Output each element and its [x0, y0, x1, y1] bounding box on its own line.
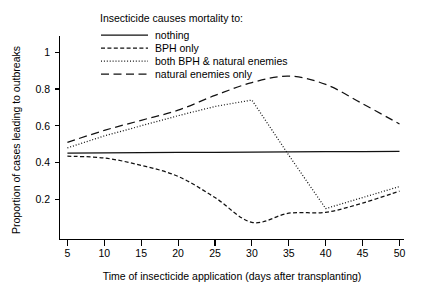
x-tick-label: 35 — [283, 247, 295, 259]
legend-label-both-bph-and-natural-enemies: both BPH & natural enemies — [155, 55, 288, 67]
x-tick-label: 10 — [98, 247, 110, 259]
x-tick-label: 30 — [246, 247, 258, 259]
y-tick-label: 1 — [44, 46, 50, 58]
y-tick-label: 0.4 — [35, 156, 50, 168]
series-line-bph-only — [67, 156, 399, 223]
y-axis-ticks: 0.2 0.4 0.6 0.8 1 — [35, 46, 59, 205]
x-tick-label: 50 — [394, 247, 406, 259]
legend-label-nothing: nothing — [155, 29, 190, 41]
line-chart: 0.2 0.4 0.6 0.8 1 5 10 15 20 25 30 — [0, 0, 421, 293]
x-tick-label: 15 — [135, 247, 147, 259]
x-axis-ticks: 5 10 15 20 25 30 35 40 45 50 — [64, 240, 405, 260]
x-tick-label: 25 — [209, 247, 221, 259]
legend-title: Insecticide causes mortality to: — [100, 12, 243, 24]
series-line-nothing — [67, 151, 399, 153]
x-tick-label: 45 — [357, 247, 369, 259]
legend: Insecticide causes mortality to: nothing… — [100, 12, 288, 80]
y-tick-label: 0.6 — [35, 120, 50, 132]
chart-figure: 0.2 0.4 0.6 0.8 1 5 10 15 20 25 30 — [0, 0, 421, 293]
y-tick-label: 0.8 — [35, 83, 50, 95]
x-tick-label: 5 — [64, 247, 70, 259]
x-tick-label: 40 — [320, 247, 332, 259]
y-tick-label: 0.2 — [35, 193, 50, 205]
x-axis-title: Time of insecticide application (days af… — [103, 270, 362, 282]
series-line-both-bph-and-natural-enemies — [67, 100, 399, 209]
legend-label-bph-only: BPH only — [155, 42, 200, 54]
y-axis-title: Proportion of cases leading to outbreaks — [10, 46, 22, 234]
x-tick-label: 20 — [172, 247, 184, 259]
series-line-natural-enemies-only — [67, 76, 399, 142]
legend-label-natural-enemies-only: natural enemies only — [155, 68, 253, 80]
series-group — [67, 76, 399, 223]
